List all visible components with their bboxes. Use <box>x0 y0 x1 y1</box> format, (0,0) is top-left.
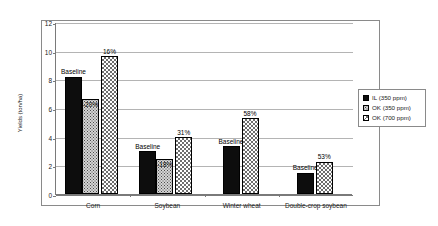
ytick-mark-0 <box>53 196 56 197</box>
legend-label-ok-350: OK (350 ppm) <box>372 105 411 111</box>
bar-corn-ok-700[interactable]: 16% <box>101 56 118 194</box>
bar-group-double-crop-soybean: Baseline 53% Double-crop soybean <box>279 23 353 194</box>
bar-double-crop-soybean-il-350[interactable]: Baseline <box>297 173 314 195</box>
bar-label-dcs-baseline: Baseline <box>293 165 318 172</box>
xtick-label-winter-wheat: Winter wheat <box>223 203 261 210</box>
bar-label-corn-ok700: 16% <box>103 49 116 56</box>
bar-group-winter-wheat: Baseline 58% Winter wheat <box>205 23 279 194</box>
legend-item-il-350[interactable]: IL (350 ppm) <box>363 93 422 103</box>
bar-double-crop-soybean-ok-700[interactable]: 53% <box>316 162 333 194</box>
xtick-label-double-crop-soybean: Double-crop soybean <box>285 203 347 210</box>
bar-soybean-ok-350[interactable]: -18% <box>156 159 173 194</box>
legend-item-ok-700[interactable]: OK (700 ppm) <box>363 113 422 123</box>
ytick-label-12: 12 <box>45 21 52 28</box>
ytick-label-8: 8 <box>48 78 52 85</box>
bar-corn-ok-350[interactable]: -20% <box>82 99 99 194</box>
bar-label-wheat-baseline: Baseline <box>219 139 244 146</box>
xtick-label-corn: Corn <box>86 203 100 210</box>
bar-label-soybean-baseline: Baseline <box>135 144 160 151</box>
y-axis-label: Yields (ton/ha) <box>17 94 23 132</box>
bar-winter-wheat-il-350[interactable]: Baseline <box>223 146 240 194</box>
chart-legend: IL (350 ppm) OK (350 ppm) OK (700 ppm) <box>358 89 426 127</box>
bar-label-corn-ok350: -20% <box>83 102 98 109</box>
legend-swatch-solid-black-icon <box>363 95 369 101</box>
ytick-label-4: 4 <box>48 135 52 142</box>
bar-winter-wheat-ok-700[interactable]: 58% <box>242 118 259 194</box>
legend-label-ok-700: OK (700 ppm) <box>372 115 411 121</box>
ytick-label-2: 2 <box>48 164 52 171</box>
xtick-sep-soybean <box>205 194 206 197</box>
bar-soybean-il-350[interactable]: Baseline <box>139 151 156 194</box>
plot-area: 12 10 8 6 4 2 0 Baseline <box>55 23 352 195</box>
xtick-label-soybean: Soybean <box>155 203 181 210</box>
bar-group-corn: Baseline -20% 16% Corn <box>56 23 130 194</box>
legend-swatch-dotted-grey-icon <box>363 105 369 111</box>
bar-label-corn-baseline: Baseline <box>61 69 86 76</box>
chart-figure: Yields (ton/ha) 12 10 8 6 4 2 0 <box>0 0 438 226</box>
legend-label-il-350: IL (350 ppm) <box>372 95 407 101</box>
bar-label-dcs-ok700: 53% <box>318 154 331 161</box>
xtick-sep-winter-wheat <box>279 194 280 197</box>
bar-corn-il-350[interactable]: Baseline <box>65 77 82 195</box>
bar-group-soybean: Baseline -18% 31% Soybean <box>130 23 204 194</box>
bar-soybean-ok-700[interactable]: 31% <box>175 137 192 194</box>
bar-label-wheat-ok700: 58% <box>243 111 256 118</box>
ytick-label-0: 0 <box>48 193 52 200</box>
bar-label-soybean-ok350: -18% <box>157 162 172 169</box>
xtick-sep-corn <box>130 194 131 197</box>
ytick-label-10: 10 <box>45 49 52 56</box>
ytick-label-6: 6 <box>48 107 52 114</box>
bar-label-soybean-ok700: 31% <box>177 130 190 137</box>
legend-swatch-checker-icon <box>363 115 369 121</box>
legend-item-ok-350[interactable]: OK (350 ppm) <box>363 103 422 113</box>
